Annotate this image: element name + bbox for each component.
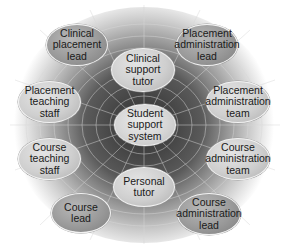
node-student-support-system: Student support system [114, 104, 176, 146]
node-label: Course administration team [203, 142, 272, 177]
student-support-diagram: Clinical placement lead Clinical support… [0, 0, 288, 244]
node-label: Placement administration lead [172, 28, 241, 63]
node-label: Clinical support tutor [112, 53, 174, 88]
node-personal-tutor: Personal tutor [113, 167, 175, 207]
node-course-lead: Course lead [51, 193, 111, 233]
node-label: Course lead [52, 202, 110, 225]
node-course-teaching-staff: Course teaching staff [18, 138, 81, 180]
node-label: Personal tutor [114, 176, 174, 199]
node-course-administration-team: Course administration team [206, 138, 270, 180]
node-placement-teaching-staff: Placement teaching staff [18, 81, 81, 123]
node-label: Placement teaching staff [19, 85, 80, 120]
node-placement-administration-team: Placement administration team [206, 81, 270, 123]
node-placement-administration-lead: Placement administration lead [176, 24, 238, 66]
node-label: Clinical placement lead [47, 28, 107, 63]
node-clinical-placement-lead: Clinical placement lead [46, 24, 108, 66]
node-label: Placement administration team [203, 85, 272, 120]
node-label: Course teaching staff [19, 142, 80, 177]
center-label: Student support system [115, 108, 175, 143]
node-label: Course administration lead [174, 197, 243, 232]
node-course-administration-lead: Course administration lead [177, 193, 241, 235]
node-clinical-support-tutor: Clinical support tutor [111, 48, 175, 92]
